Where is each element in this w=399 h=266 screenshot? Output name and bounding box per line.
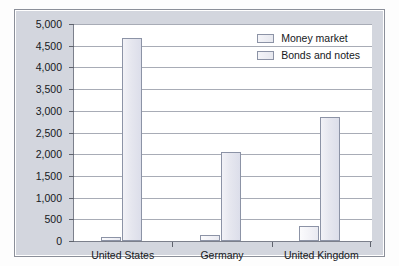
y-axis-tick <box>69 219 74 220</box>
x-axis-tick-label: Germany <box>200 249 243 261</box>
gridline <box>74 89 372 90</box>
chart-figure: 05001,0001,5002,0002,5003,0003,5004,0004… <box>0 0 399 266</box>
y-axis-tick-label: 1,500 <box>36 171 62 181</box>
y-axis-tick <box>69 46 74 47</box>
y-axis-tick <box>69 154 74 155</box>
bar-money-market <box>101 237 121 241</box>
y-axis-tick <box>69 67 74 68</box>
y-axis-tick-label: 2,500 <box>36 128 62 138</box>
chart-frame: 05001,0001,5002,0002,5003,0003,5004,0004… <box>14 9 385 257</box>
y-axis-tick-label: 4,000 <box>36 62 62 72</box>
y-axis-tick-label: 5,000 <box>36 19 62 29</box>
y-axis-tick <box>69 24 74 25</box>
bar-bonds-and-notes <box>122 38 142 241</box>
y-axis-tick-label: 1,000 <box>36 193 62 203</box>
bar-money-market <box>200 235 220 242</box>
y-axis-tick <box>69 89 74 90</box>
y-axis-tick-label: 3,500 <box>36 84 62 94</box>
legend-label-bonds-and-notes: Bonds and notes <box>281 49 360 61</box>
y-axis-tick-label: 4,500 <box>36 41 62 51</box>
legend-label-money-market: Money market <box>281 32 348 44</box>
y-axis-tick <box>69 198 74 199</box>
gridline <box>74 67 372 68</box>
x-axis-tick <box>272 242 273 247</box>
y-axis-tick-label: 500 <box>44 214 62 224</box>
x-axis-tick-label: United States <box>91 249 154 261</box>
y-axis-tick <box>69 176 74 177</box>
plot-area: Money market Bonds and notes <box>73 24 372 242</box>
x-axis-tick-label: United Kingdom <box>284 249 359 261</box>
x-axis: United StatesGermanyUnited Kingdom <box>73 242 372 266</box>
legend-item-bonds-and-notes: Bonds and notes <box>257 49 360 61</box>
y-axis-tick <box>69 133 74 134</box>
legend-swatch-icon-bonds-and-notes <box>257 51 274 60</box>
legend-item-money-market: Money market <box>257 32 360 44</box>
chart-legend: Money market Bonds and notes <box>257 32 360 66</box>
y-axis-tick <box>69 111 74 112</box>
gridline <box>74 111 372 112</box>
legend-swatch-icon-money-market <box>257 34 274 43</box>
bar-money-market <box>299 226 319 241</box>
bar-bonds-and-notes <box>221 152 241 241</box>
y-axis-tick-label: 2,000 <box>36 149 62 159</box>
y-axis-labels: 05001,0001,5002,0002,5003,0003,5004,0004… <box>15 24 62 242</box>
x-axis-tick <box>370 242 371 247</box>
gridline <box>74 24 372 25</box>
bar-bonds-and-notes <box>320 117 340 241</box>
y-axis-tick-label: 3,000 <box>36 106 62 116</box>
x-axis-tick <box>172 242 173 247</box>
y-axis-tick-label: 0 <box>56 236 62 246</box>
